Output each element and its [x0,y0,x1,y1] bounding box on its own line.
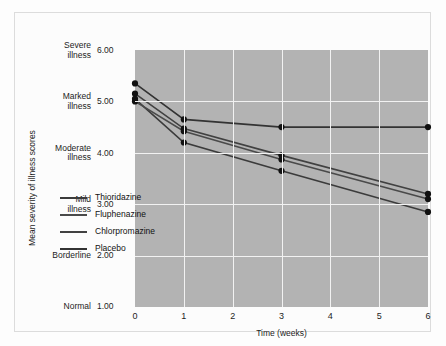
x-axis-tick: 2 [221,311,245,321]
plot-area [135,50,428,307]
grid-line-vertical [184,50,185,307]
legend-label: Fluphenazine [95,206,146,223]
y-axis-tick-value: 4.00 [97,149,127,159]
x-axis-tick: 1 [172,311,196,321]
legend-label: Chlorpromazine [95,223,155,240]
grid-line-vertical [233,50,234,307]
x-axis-tick: 0 [123,311,147,321]
grid-line-horizontal [135,101,428,102]
y-axis-tick-value: 5.00 [97,97,127,107]
data-point [132,80,138,86]
y-axis-tick-words: Severeillness [29,41,91,60]
chart-figure: Mean severity of illness scores Severeil… [0,0,446,346]
legend-swatch [60,214,87,216]
legend-item: Fluphenazine [60,205,210,222]
y-axis-tick-words: Markedillness [29,92,91,111]
data-point [425,191,431,197]
y-axis-tick-words: Moderateillness [29,144,91,163]
legend-item: Thioridazine [60,188,210,205]
legend-swatch [60,248,87,250]
legend-label: Placebo [95,240,126,257]
chart-legend: ThioridazineFluphenazineChlorpromazinePl… [60,188,210,256]
y-axis-tick: Normal1.00 [15,302,127,312]
legend-swatch [60,231,87,233]
data-point [425,124,431,130]
data-point [132,91,138,97]
y-axis-labels: Severeillness6.00Markedillness5.00Modera… [15,13,135,346]
legend-label: Thioridazine [95,189,141,206]
legend-item: Chlorpromazine [60,222,210,239]
x-axis-tick: 6 [416,311,440,321]
y-axis-tick: Markedillness5.00 [15,92,127,111]
grid-line-vertical [379,50,380,307]
data-point [425,209,431,215]
grid-line-horizontal [135,153,428,154]
grid-line-vertical [282,50,283,307]
y-axis-tick: Moderateillness4.00 [15,144,127,163]
grid-line-vertical [330,50,331,307]
x-axis-tick: 3 [270,311,294,321]
x-axis-tick: 5 [367,311,391,321]
x-axis-title: Time (weeks) [135,328,428,338]
y-axis-tick-words: Normal [29,302,91,312]
legend-item: Placebo [60,239,210,256]
chart-frame: Mean severity of illness scores Severeil… [14,12,431,332]
grid-line-horizontal [135,256,428,257]
y-axis-tick-value: 6.00 [97,46,127,56]
x-axis-tick: 4 [318,311,342,321]
y-axis-tick: Severeillness6.00 [15,41,127,60]
legend-swatch [60,197,87,199]
